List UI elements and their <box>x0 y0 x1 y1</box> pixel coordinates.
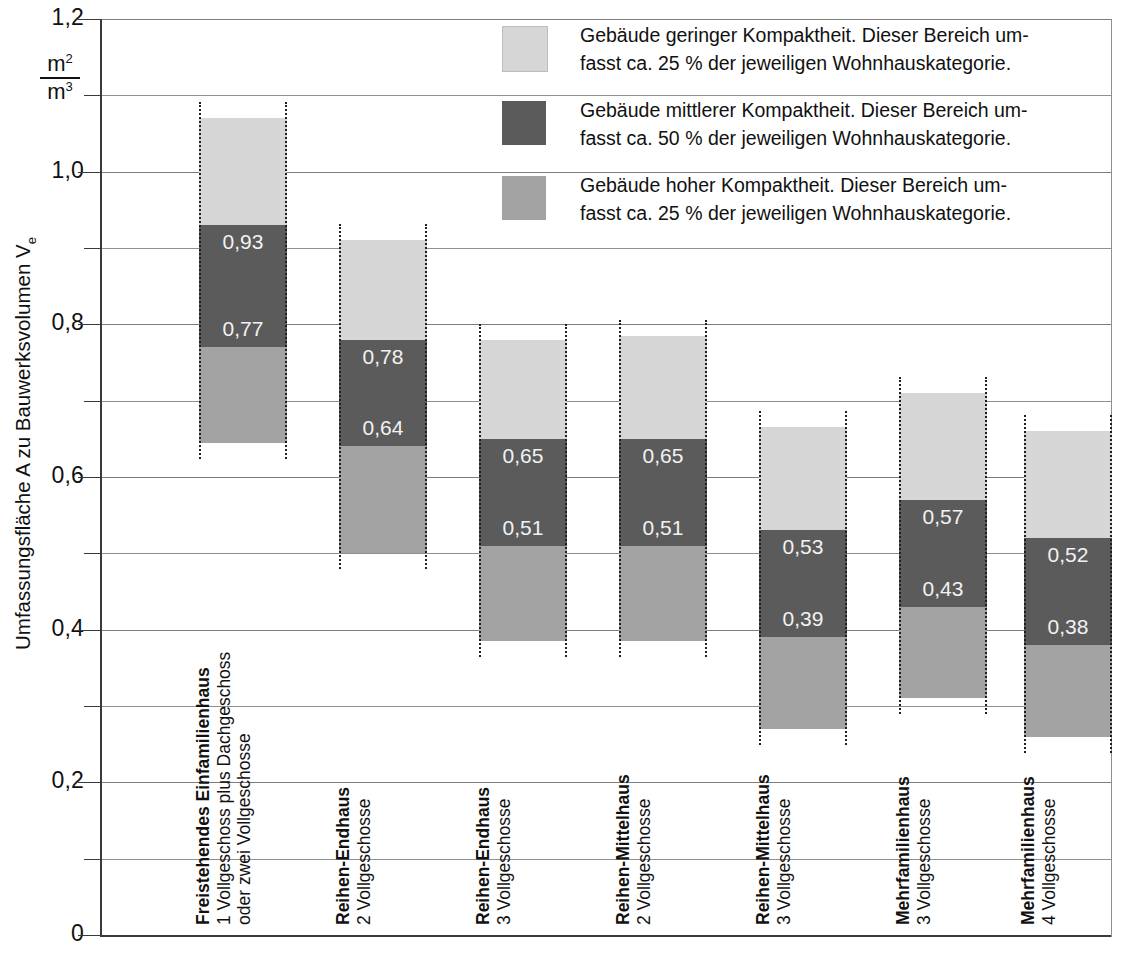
x-category-label: Reihen-Endhaus2 Vollgeschosse <box>333 787 374 925</box>
bar-value-label-upper: 0,52 <box>1024 543 1112 567</box>
legend-label-line2: fasst ca. 25 % der jeweiligen Wohnhauska… <box>580 200 1114 228</box>
bar-bracket-left <box>339 224 341 569</box>
bar-bracket-left <box>479 324 481 658</box>
y-axis-title-text: Umfassungsfläche A zu Bauwerksvolumen V <box>11 244 34 650</box>
bar-value-label-lower: 0,51 <box>619 516 707 540</box>
y-axis-title-subscript: e <box>24 237 39 244</box>
y-axis-minor-tick <box>84 248 100 249</box>
y-axis-tick <box>78 782 100 783</box>
y-axis-minor-tick <box>84 95 100 96</box>
bar-bracket-right <box>565 324 567 658</box>
category-subtitle: 3 Vollgeschosse <box>774 799 794 925</box>
bar-segment-high-compactness[interactable] <box>199 347 287 442</box>
y-axis-title: Umfassungsfläche A zu Bauwerksvolumen Ve <box>11 114 38 774</box>
bar-segment-low-compactness[interactable] <box>199 118 287 225</box>
category-subtitle: 4 Vollgeschosse <box>1039 799 1059 925</box>
bar-segment-low-compactness[interactable] <box>1024 431 1112 538</box>
bar-value-label-lower: 0,38 <box>1024 615 1112 639</box>
y-axis-minor-tick <box>84 553 100 554</box>
x-category-label: Reihen-Mittelhaus2 Vollgeschosse <box>613 774 654 925</box>
bar-segment-low-compactness[interactable] <box>619 336 707 439</box>
y-axis-tick <box>78 19 100 20</box>
x-category-label: Mehrfamilienhaus3 Vollgeschosse <box>893 776 934 925</box>
legend-label-line2: fasst ca. 50 % der jeweiligen Wohnhauska… <box>580 125 1114 153</box>
legend-item[interactable]: Gebäude geringer Kompaktheit. Dieser Ber… <box>502 26 1114 84</box>
bar-bracket-right <box>705 320 707 657</box>
legend-swatch-high <box>502 176 546 220</box>
bar-segment-high-compactness[interactable] <box>899 607 987 699</box>
x-axis-line <box>100 935 1112 937</box>
category-subtitle: 3 Vollgeschosse <box>494 799 514 925</box>
y-axis-minor-tick <box>84 401 100 402</box>
bar-value-label-upper: 0,93 <box>199 230 287 254</box>
legend-label-line1: Gebäude geringer Kompaktheit. Dieser Ber… <box>580 22 1114 50</box>
bar-value-label-lower: 0,64 <box>339 416 427 440</box>
y-axis-tick <box>78 324 100 325</box>
category-name: Reihen-Endhaus <box>333 787 353 925</box>
x-category-label: Freistehendes Einfamilienhaus1 Vollgesch… <box>193 652 255 925</box>
y-axis-minor-tick <box>84 706 100 707</box>
unit-numerator: m <box>47 51 65 76</box>
category-name: Reihen-Mittelhaus <box>753 774 773 925</box>
legend-label-line1: Gebäude mittlerer Kompaktheit. Dieser Be… <box>580 97 1114 125</box>
y-axis-tick <box>78 935 100 936</box>
unit-denominator-exponent: 3 <box>66 79 73 94</box>
bar-value-label-upper: 0,57 <box>899 505 987 529</box>
bar-segment-high-compactness[interactable] <box>619 546 707 641</box>
bar-segment-high-compactness[interactable] <box>339 446 427 553</box>
x-category-label: Reihen-Mittelhaus3 Vollgeschosse <box>753 774 794 925</box>
legend-label-line1: Gebäude hoher Kompaktheit. Dieser Bereic… <box>580 172 1114 200</box>
bar-segment-low-compactness[interactable] <box>899 393 987 500</box>
bar-bracket-right <box>425 224 427 569</box>
y-axis-line <box>100 19 102 937</box>
legend-item[interactable]: Gebäude mittlerer Kompaktheit. Dieser Be… <box>502 101 1114 159</box>
y-tick-label: 1,2 <box>12 4 84 31</box>
bar-bracket-right <box>1110 415 1112 752</box>
bar-value-label-upper: 0,65 <box>619 444 707 468</box>
legend-label: Gebäude mittlerer Kompaktheit. Dieser Be… <box>580 97 1114 152</box>
y-axis-tick <box>78 477 100 478</box>
unit-denominator: m <box>47 79 65 104</box>
bar-bracket-right <box>985 377 987 714</box>
bar-segment-high-compactness[interactable] <box>1024 645 1112 737</box>
bar-bracket-right <box>845 411 847 745</box>
category-subtitle: 2 Vollgeschosse <box>634 799 654 925</box>
legend-swatch-mid <box>502 101 546 145</box>
bar-bracket-left <box>759 411 761 745</box>
legend-label-line2: fasst ca. 25 % der jeweiligen Wohnhauska… <box>580 50 1114 78</box>
x-category-label: Reihen-Endhaus3 Vollgeschosse <box>473 787 514 925</box>
category-name: Reihen-Mittelhaus <box>613 774 633 925</box>
y-axis-tick <box>78 630 100 631</box>
y-axis-tick <box>78 172 100 173</box>
legend-label: Gebäude geringer Kompaktheit. Dieser Ber… <box>580 22 1114 77</box>
bar-bracket-left <box>899 377 901 714</box>
category-name: Mehrfamilienhaus <box>893 776 913 925</box>
bar-bracket-left <box>1024 415 1026 752</box>
category-subtitle: 2 Vollgeschosse <box>354 799 374 925</box>
category-subtitle: 1 Vollgeschoss plus Dachgeschoss <box>214 652 234 925</box>
legend-item[interactable]: Gebäude hoher Kompaktheit. Dieser Bereic… <box>502 176 1114 234</box>
y-axis-minor-tick <box>84 859 100 860</box>
bar-segment-high-compactness[interactable] <box>479 546 567 641</box>
bar-value-label-upper: 0,78 <box>339 345 427 369</box>
y-tick-label: 0 <box>12 920 84 947</box>
bar-group[interactable]: 0,780,64 <box>339 0 427 916</box>
bar-segment-low-compactness[interactable] <box>339 240 427 339</box>
category-subtitle: 3 Vollgeschosse <box>914 799 934 925</box>
x-category-label: Mehrfamilienhaus4 Vollgeschosse <box>1018 776 1059 925</box>
chart-canvas: 1,21,00,80,60,40,20 m2 m3 Umfassungsfläc… <box>0 0 1123 958</box>
bar-value-label-lower: 0,77 <box>199 317 287 341</box>
bar-value-label-lower: 0,43 <box>899 577 987 601</box>
bar-segment-low-compactness[interactable] <box>479 340 567 439</box>
bar-segment-low-compactness[interactable] <box>759 427 847 530</box>
bar-segment-high-compactness[interactable] <box>759 637 847 729</box>
bar-value-label-upper: 0,53 <box>759 535 847 559</box>
bar-bracket-left <box>619 320 621 657</box>
category-name: Reihen-Endhaus <box>473 787 493 925</box>
category-name: Freistehendes Einfamilienhaus <box>193 667 213 925</box>
bar-value-label-lower: 0,51 <box>479 516 567 540</box>
bar-value-label-lower: 0,39 <box>759 607 847 631</box>
category-subtitle-2: oder zwei Vollgeschosse <box>234 733 254 925</box>
legend-label: Gebäude hoher Kompaktheit. Dieser Bereic… <box>580 172 1114 227</box>
y-axis-unit: m2 m3 <box>38 52 82 104</box>
